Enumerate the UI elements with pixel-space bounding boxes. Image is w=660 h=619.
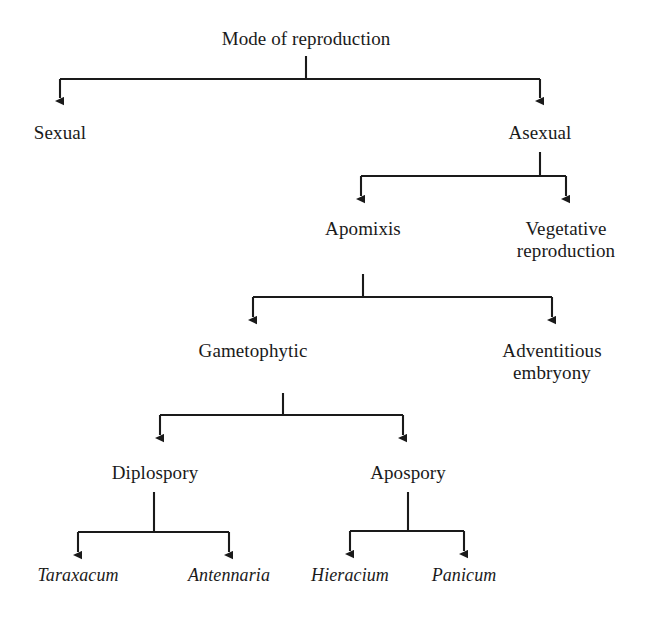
edge-group-asexual: [361, 152, 566, 196]
node-panicum: Panicum: [432, 565, 497, 586]
node-asexual: Asexual: [509, 122, 572, 144]
node-taraxacum: Taraxacum: [37, 565, 118, 586]
edge-group-diplospory: [78, 492, 229, 552]
node-apomixis: Apomixis: [325, 218, 401, 240]
node-mode-of-reproduction: Mode of reproduction: [222, 28, 391, 50]
node-diplospory: Diplospory: [112, 462, 199, 484]
edge-group-apospory: [350, 492, 464, 551]
edge-group-apomixis: [253, 274, 552, 317]
node-gametophytic: Gametophytic: [199, 340, 308, 362]
connector-layer: [0, 0, 660, 619]
edge-group-root: [60, 56, 540, 98]
node-antennaria: Antennaria: [188, 565, 270, 586]
node-vegetative-reproduction: Vegetative reproduction: [517, 218, 615, 263]
node-hieracium: Hieracium: [311, 565, 389, 586]
reproduction-mode-flowchart: Mode of reproduction Sexual Asexual Apom…: [0, 0, 660, 619]
node-sexual: Sexual: [34, 122, 86, 144]
node-apospory: Apospory: [370, 462, 446, 484]
node-adventitious-embryony: Adventitious embryony: [502, 340, 601, 385]
edge-group-gametophytic: [160, 393, 403, 435]
